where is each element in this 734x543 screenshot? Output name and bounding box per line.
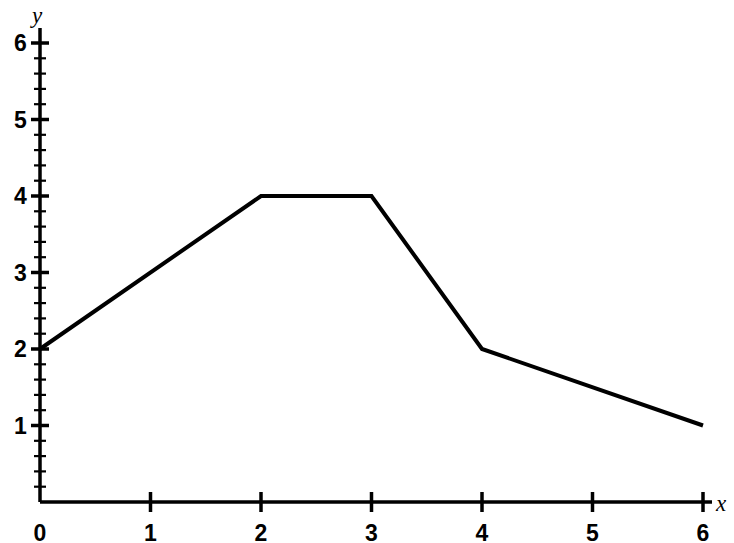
y-tick-label: 2: [14, 338, 27, 361]
x-tick-label: 4: [476, 522, 489, 543]
x-tick-label: 5: [586, 522, 599, 543]
y-tick-label: 5: [14, 108, 27, 131]
y-tick-label: 1: [14, 414, 27, 437]
chart-figure: y x 0123456 123456: [0, 0, 734, 543]
x-tick-label: 6: [697, 522, 710, 543]
x-tick-label: 2: [255, 522, 268, 543]
y-axis-label: y: [32, 4, 42, 27]
data-series-line: [40, 196, 703, 426]
x-tick-label: 1: [144, 522, 157, 543]
x-tick-label: 3: [365, 522, 378, 543]
x-axis-label: x: [716, 492, 726, 515]
x-tick-label: 0: [34, 522, 47, 543]
y-tick-label: 4: [14, 185, 27, 208]
y-tick-label: 3: [14, 261, 27, 284]
line-chart-canvas: [0, 0, 734, 543]
y-tick-label: 6: [14, 32, 27, 55]
